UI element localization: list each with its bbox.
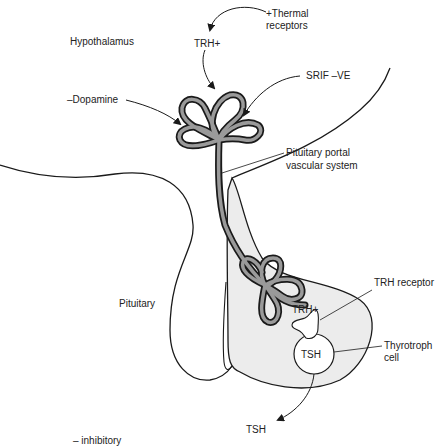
hypothalamus-outline-left xyxy=(0,165,232,380)
portal-label-line2: vascular system xyxy=(286,160,358,172)
thyrotroph-label-line1: Thyrotroph xyxy=(384,340,432,352)
thermal-arrow xyxy=(210,7,266,30)
trh-cell-label: TRH+ xyxy=(292,304,318,316)
tsh-output-label: TSH xyxy=(246,424,266,436)
thyrotroph-label-line2: cell xyxy=(384,352,399,364)
dopamine-arrow xyxy=(126,100,180,124)
legend-inhibitory: – inhibitory xyxy=(73,435,121,447)
portal-label-line1: Pituitary portal xyxy=(286,147,350,159)
srif-label: SRIF –VE xyxy=(306,70,350,82)
trh-top-label: TRH+ xyxy=(194,38,220,50)
trh-arrow xyxy=(203,50,214,88)
trh-receptor-label: TRH receptor xyxy=(374,277,434,289)
pituitary-label: Pituitary xyxy=(119,298,155,310)
diagram-graphic xyxy=(0,0,440,448)
srif-arrow xyxy=(244,76,300,115)
tsh-cell-label: TSH xyxy=(301,349,321,361)
hypothalamic-pituitary-thyroid-diagram: Hypothalamus TRH+ +Thermal receptors –Do… xyxy=(0,0,440,448)
dopamine-label: –Dopamine xyxy=(67,94,118,106)
hypothalamus-label: Hypothalamus xyxy=(70,36,134,48)
thermal-label-line1: +Thermal xyxy=(266,8,309,20)
thermal-label-line2: receptors xyxy=(266,20,308,32)
